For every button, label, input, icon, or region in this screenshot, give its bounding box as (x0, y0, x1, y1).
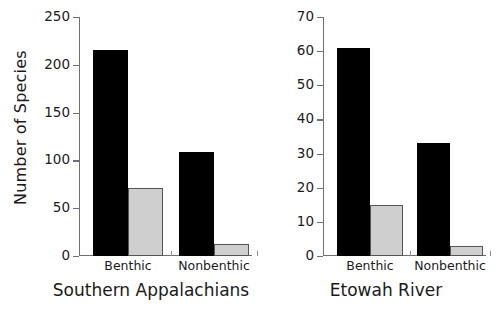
y-axis-tick-label: 30 (297, 147, 314, 161)
bar-benthic-black-series (337, 48, 370, 256)
x-axis-category-label: Nonbenthic (178, 260, 250, 273)
y-axis-tick (73, 113, 79, 114)
panel-title-left: Southern Appalachians (0, 282, 262, 299)
y-axis-tick (73, 208, 79, 209)
chart-panel-etowah-river: 010203040506070 Etowah River BenthicNonb… (262, 0, 500, 319)
y-axis-tick (73, 65, 79, 66)
x-axis-group-separator (257, 251, 258, 256)
y-axis-tick-label: 150 (44, 106, 70, 120)
y-axis-tick-label: 200 (44, 58, 70, 72)
y-axis-tick (317, 51, 323, 52)
plot-area-left: 050100150200250 (79, 17, 244, 256)
x-axis-group-separator (171, 251, 172, 256)
y-axis-tick-label: 10 (297, 215, 314, 229)
y-axis-tick (73, 160, 79, 161)
x-axis-group-separator (410, 251, 411, 256)
bar-benthic-gray-series (128, 188, 163, 256)
y-axis-line (323, 17, 324, 256)
x-axis-category-label: Benthic (104, 260, 151, 273)
y-axis-tick-label: 20 (297, 181, 314, 195)
y-axis-tick-label: 0 (61, 249, 70, 263)
y-axis-tick (73, 256, 79, 257)
y-axis-tick-label: 100 (44, 154, 70, 168)
bar-benthic-gray-series (370, 205, 403, 256)
y-axis-tick-label: 70 (297, 10, 314, 24)
y-axis-tick-label: 0 (305, 249, 314, 263)
y-axis-tick (317, 256, 323, 257)
y-axis-tick (317, 188, 323, 189)
y-axis-tick-label: 50 (53, 201, 70, 215)
y-axis-tick-label: 250 (44, 10, 70, 24)
bar-nonbenthic-gray-series (450, 246, 483, 256)
figure: Number of Species 050100150200250 Southe… (0, 0, 500, 319)
x-axis-group-separator (490, 251, 491, 256)
y-axis-label: Number of Species (6, 0, 34, 256)
y-axis-tick-label: 60 (297, 44, 314, 58)
plot-area-right: 010203040506070 (323, 17, 478, 256)
y-axis-tick-label: 50 (297, 79, 314, 93)
bar-nonbenthic-gray-series (214, 244, 249, 256)
y-axis-tick (317, 85, 323, 86)
x-axis-category-label: Benthic (346, 260, 393, 273)
x-axis-category-label: Nonbenthic (414, 260, 486, 273)
bar-nonbenthic-black-series (179, 152, 214, 256)
y-axis-tick-label: 40 (297, 113, 314, 127)
bar-benthic-black-series (93, 50, 128, 256)
y-axis-line (79, 17, 80, 256)
y-axis-tick (317, 222, 323, 223)
bar-nonbenthic-black-series (417, 143, 450, 256)
y-axis-tick (73, 17, 79, 18)
y-axis-tick (317, 17, 323, 18)
y-axis-tick (317, 154, 323, 155)
y-axis-tick (317, 119, 323, 120)
chart-panel-southern-appalachians: Number of Species 050100150200250 Southe… (0, 0, 262, 319)
panel-title-right: Etowah River (262, 282, 500, 299)
